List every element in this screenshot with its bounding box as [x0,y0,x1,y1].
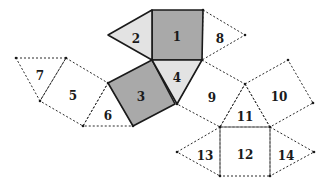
vertex-dot [269,126,272,129]
vertex-dot [312,102,315,105]
vertex-dot [176,103,179,106]
face-label-8: 8 [216,32,224,46]
face-label-4: 4 [173,71,181,85]
face-label-9: 9 [208,91,216,105]
faces-layer [16,10,314,176]
vertex-dot [82,125,85,128]
face-label-10: 10 [271,90,288,104]
vertex-dot [269,175,272,178]
vertex-dot [132,125,135,128]
face-label-13: 13 [197,149,214,163]
vertex-dot [201,59,204,62]
face-label-2: 2 [132,32,140,46]
vertex-dot [39,100,42,103]
face-label-11: 11 [237,110,254,124]
vertex-dot [202,9,205,12]
vertex-dot [287,59,290,62]
face-label-5: 5 [69,89,77,103]
face-label-6: 6 [104,109,112,123]
vertex-dot [107,82,110,85]
face-label-14: 14 [278,149,295,163]
vertex-dot [15,57,18,60]
polyhedron-net-diagram: 5678910111213141234 [0,0,328,192]
vertex-dot [219,126,222,129]
vertex-dot [219,175,222,178]
vertex-dot [244,83,247,86]
vertex-dot [313,151,316,154]
vertex-dot [244,34,247,37]
face-label-12: 12 [237,148,254,162]
face-2-triangle [108,10,152,60]
face-label-3: 3 [137,90,145,104]
face-label-1: 1 [173,30,181,44]
face-label-7: 7 [36,69,44,83]
vertex-dot [176,151,179,154]
vertex-dot [65,57,68,60]
